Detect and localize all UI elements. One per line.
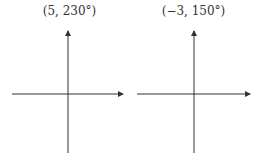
- coordinate-axes-1: [12, 31, 123, 153]
- coordinate-axes-2: [137, 31, 250, 153]
- axes-canvas: [0, 0, 258, 160]
